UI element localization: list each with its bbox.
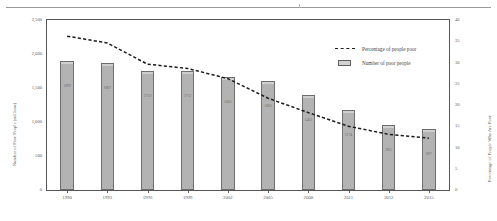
- bar-swatch-icon: [335, 59, 355, 67]
- y-right-tick-label: 20: [455, 102, 475, 107]
- y-right-tick-label: 40: [455, 17, 475, 22]
- plot-area: 18991867175017511665160514011174963897 P…: [46, 19, 450, 191]
- legend-item-percentage: Percentage of people poor: [335, 43, 416, 54]
- x-tick-label-2002: 2002: [213, 195, 243, 200]
- x-tick-label-1996: 1996: [133, 195, 163, 200]
- y-right-tick-label: 10: [455, 145, 475, 150]
- page-top-rule: [6, 7, 491, 8]
- y-left-tick-label: 0: [22, 187, 42, 192]
- y-left-tick-label: 2,500: [22, 17, 42, 22]
- chart-page: Number of Poor People (millions) Percent…: [0, 0, 497, 221]
- y-left-tick-label: 1,000: [22, 119, 42, 124]
- dashed-line-icon: [335, 45, 355, 53]
- x-tick-label-1990: 1990: [52, 195, 82, 200]
- y-right-tick-label: 0: [455, 187, 475, 192]
- y-right-tick-label: 5: [455, 166, 475, 171]
- y-right-tick-label: 25: [455, 81, 475, 86]
- y-left-tick-label: 1,500: [22, 85, 42, 90]
- y-right-tick-label: 15: [455, 123, 475, 128]
- x-tick-label-2012: 2012: [374, 195, 404, 200]
- chart-legend: Percentage of people poor Number of poor…: [335, 43, 416, 71]
- x-tick-label-2015: 2015: [414, 195, 444, 200]
- legend-label-percentage: Percentage of people poor: [362, 46, 416, 52]
- legend-item-number: Number of poor people: [335, 57, 416, 68]
- y-axis-right-title: Percentage of People Who Are Poor: [487, 115, 492, 182]
- y-left-tick-label: 2,000: [22, 51, 42, 56]
- y-axis-left-title: Number of Poor People (millions): [12, 103, 17, 166]
- x-tick-label-2011: 2011: [334, 195, 364, 200]
- x-tick-label-1993: 1993: [92, 195, 122, 200]
- y-right-tick-label: 30: [455, 60, 475, 65]
- page-top-tick: [299, 4, 300, 8]
- legend-label-number: Number of poor people: [362, 60, 411, 66]
- x-tick-label-2008: 2008: [293, 195, 323, 200]
- y-right-tick-label: 35: [455, 38, 475, 43]
- x-tick-label-2005: 2005: [253, 195, 283, 200]
- y-left-tick-label: 500: [22, 153, 42, 158]
- x-tick-label-1999: 1999: [173, 195, 203, 200]
